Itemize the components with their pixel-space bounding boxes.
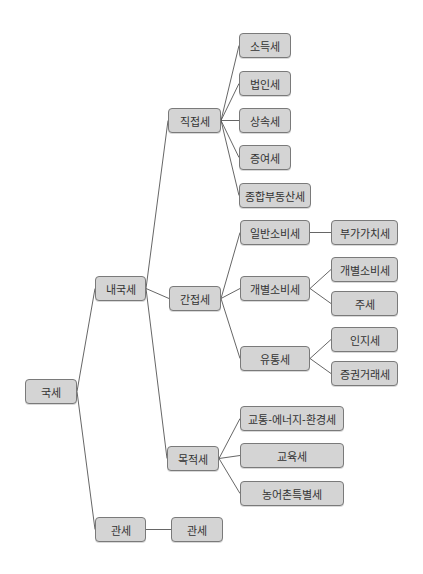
node-gwanse: 관세 [171,517,223,542]
node-education-tax: 교육세 [240,443,344,468]
node-corporate-tax: 법인세 [239,71,291,96]
node-individual-consumption-tax-group: 개별소비세 [240,276,310,301]
node-rural-special-tax: 농어촌특별세 [240,481,344,506]
node-securities-transaction-tax: 증권거래세 [331,361,398,386]
node-direct-tax: 직접세 [168,108,221,133]
node-vat: 부가가치세 [331,220,398,245]
node-indirect-tax: 간접세 [169,286,221,311]
node-naegukse: 내국세 [95,276,146,301]
node-inheritance-tax: 상속세 [239,108,291,133]
node-gukse: 국세 [25,379,77,404]
node-gwanse-category: 관세 [95,517,146,542]
node-stamp-tax: 인지세 [331,327,398,352]
node-gift-tax: 증여세 [239,145,291,170]
node-purpose-tax: 목적세 [167,446,219,471]
node-general-consumption-tax: 일반소비세 [240,220,310,245]
node-liquor-tax: 주세 [331,291,398,316]
node-income-tax: 소득세 [239,33,291,58]
node-transport-energy-environment-tax: 교통-에너지-환경세 [240,406,344,431]
node-circulation-tax: 유통세 [240,346,310,371]
node-comprehensive-real-estate-tax: 종합부동산세 [239,183,311,208]
node-individual-consumption-tax: 개별소비세 [331,257,398,282]
